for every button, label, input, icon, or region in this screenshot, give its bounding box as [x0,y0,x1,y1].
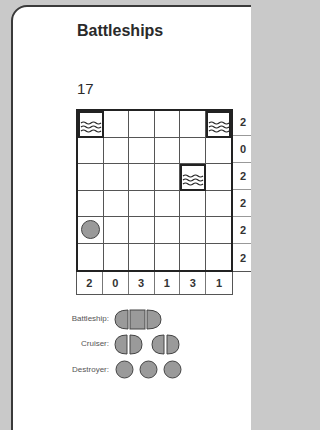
grid-cell[interactable] [78,138,104,165]
grid-cell[interactable] [78,191,104,218]
grid-cell[interactable] [104,217,130,244]
row-clue: 2 [233,109,251,136]
cruiser-icon [114,334,143,355]
column-clue: 1 [206,272,232,294]
column-clue: 3 [129,272,155,294]
grid-cell[interactable] [78,244,104,271]
grid-cell[interactable] [129,191,155,218]
grid-cell[interactable] [155,138,181,165]
row-clue: 0 [233,136,251,163]
puzzle-grid [76,109,233,272]
grid-cell[interactable] [155,244,181,271]
grid-cell[interactable] [206,191,232,218]
column-clue: 0 [103,272,129,294]
grid-cell[interactable] [155,111,181,138]
grid-cell[interactable] [206,138,232,165]
battleship-icon [114,309,162,330]
grid-cell[interactable] [206,217,232,244]
row-clue: 2 [233,190,251,217]
grid-cell[interactable] [155,191,181,218]
grid-cell[interactable] [206,244,232,271]
water-icon [208,121,230,135]
legend-battleship-label: Battleship: [72,314,109,323]
destroyer-icon [139,360,158,379]
grid-cell[interactable] [129,138,155,165]
grid-cell-water[interactable] [206,111,232,138]
puzzle-number: 17 [77,80,94,97]
column-clues: 2 0 3 1 3 1 [76,272,233,295]
grid-cell[interactable] [104,244,130,271]
page-title: Battleships [77,22,163,40]
grid-cell[interactable] [129,164,155,191]
submarine-icon [81,220,100,239]
grid-cell[interactable] [78,164,104,191]
grid-cell[interactable] [104,111,130,138]
grid-cell[interactable] [104,138,130,165]
column-clue: 1 [155,272,181,294]
grid-cell[interactable] [180,244,206,271]
destroyer-icon [115,360,134,379]
grid-cell[interactable] [155,164,181,191]
grid-cell[interactable] [180,191,206,218]
row-clue: 2 [233,244,251,271]
grid-cell[interactable] [129,111,155,138]
grid-cell-water[interactable] [180,164,206,191]
water-icon [80,121,102,135]
destroyer-icon [163,360,182,379]
row-clues: 2 0 2 2 2 2 [233,109,251,272]
grid-cell-submarine[interactable] [78,217,104,244]
grid-cell-water[interactable] [78,111,104,138]
column-clue: 2 [77,272,103,294]
legend-destroyer-label: Destroyer: [72,365,109,374]
column-clue: 3 [180,272,206,294]
grid-cell[interactable] [104,164,130,191]
grid-cell[interactable] [129,217,155,244]
grid-cell[interactable] [155,217,181,244]
grid-cell[interactable] [180,217,206,244]
cruiser-icon [151,334,180,355]
grid-cell[interactable] [180,138,206,165]
grid-cell[interactable] [206,164,232,191]
legend-cruiser-label: Cruiser: [81,339,109,348]
grid-cell[interactable] [180,111,206,138]
water-icon [182,174,204,188]
grid-cell[interactable] [104,191,130,218]
row-clue: 2 [233,217,251,244]
row-clue: 2 [233,163,251,190]
grid-cell[interactable] [129,244,155,271]
